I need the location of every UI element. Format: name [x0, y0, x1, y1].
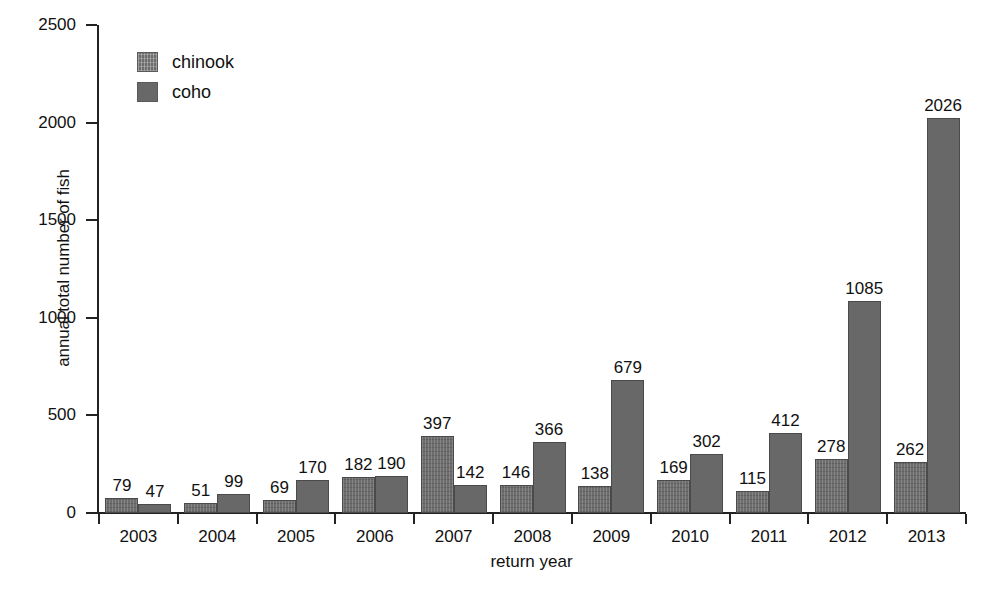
bar-chart: annual total number of fish 050010001500… [0, 0, 987, 591]
x-tick-label: 2010 [650, 527, 730, 547]
y-tick-label: 0 [0, 503, 76, 523]
legend-item-coho[interactable]: coho [137, 79, 234, 105]
legend-swatch-chinook-icon [137, 52, 158, 72]
legend-label-coho: coho [172, 82, 211, 103]
x-tick-mark [98, 514, 100, 524]
legend-item-chinook[interactable]: chinook [137, 49, 234, 75]
y-tick-mark [86, 24, 97, 26]
y-tick-label: 1500 [0, 210, 76, 230]
x-tick-label: 2007 [414, 527, 494, 547]
y-tick-label: 500 [0, 405, 76, 425]
legend-label-chinook: chinook [172, 52, 234, 73]
x-tick-label: 2008 [493, 527, 573, 547]
y-tick-label: 1000 [0, 308, 76, 328]
x-tick-label: 2003 [98, 527, 178, 547]
x-tick-label: 2011 [729, 527, 809, 547]
x-tick-mark [492, 514, 494, 524]
y-axis-label: annual total number of fish [54, 18, 74, 518]
x-tick-label: 2013 [887, 527, 967, 547]
y-tick-mark [86, 414, 97, 416]
x-tick-mark [177, 514, 179, 524]
x-tick-mark [334, 514, 336, 524]
x-tick-label: 2005 [256, 527, 336, 547]
y-tick-mark [86, 317, 97, 319]
x-tick-label: 2006 [335, 527, 415, 547]
legend: chinook coho [137, 49, 234, 109]
legend-swatch-coho-icon [137, 82, 158, 102]
x-axis-label: return year [97, 552, 966, 572]
x-tick-label: 2009 [571, 527, 651, 547]
x-tick-mark [413, 514, 415, 524]
y-axis-line [97, 25, 99, 514]
y-tick-label: 2000 [0, 113, 76, 133]
x-tick-mark [807, 514, 809, 524]
x-tick-mark [965, 514, 967, 524]
x-tick-mark [886, 514, 888, 524]
x-tick-mark [650, 514, 652, 524]
x-tick-mark [571, 514, 573, 524]
y-tick-mark [86, 122, 97, 124]
x-tick-mark [256, 514, 258, 524]
x-tick-label: 2004 [177, 527, 257, 547]
bar-value-coho-2013: 2026 [908, 96, 978, 587]
y-tick-label: 2500 [0, 15, 76, 35]
x-tick-mark [729, 514, 731, 524]
y-tick-mark [86, 219, 97, 221]
x-tick-label: 2012 [808, 527, 888, 547]
